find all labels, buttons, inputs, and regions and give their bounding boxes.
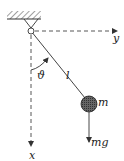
x-axis-label: x <box>29 149 36 161</box>
angle-label: ϑ <box>37 69 45 82</box>
length-label: l <box>66 69 70 82</box>
mass-label: m <box>98 96 108 109</box>
y-axis-label: y <box>112 32 120 45</box>
weight-label: mg <box>91 136 108 149</box>
pendulum-mass <box>81 96 97 112</box>
pendulum-rod <box>31 31 85 98</box>
ceiling-support <box>7 11 41 19</box>
pivot-mount <box>24 19 38 28</box>
pendulum-diagram: y x ϑ l m mg <box>0 0 124 161</box>
pivot-icon <box>28 28 34 34</box>
